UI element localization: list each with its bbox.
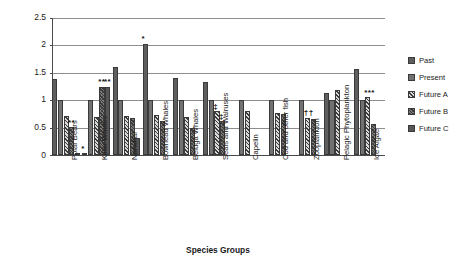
bar-annotation: ** <box>104 78 111 85</box>
y-tick-label-0: 0 <box>22 151 46 160</box>
bar[interactable] <box>148 100 153 155</box>
legend-label: Future A <box>419 90 448 99</box>
y-tick-label-2: 2 <box>22 40 46 49</box>
bar[interactable] <box>113 67 118 155</box>
legend-item[interactable]: Future C <box>408 120 468 137</box>
bar-annotation: * <box>141 35 145 42</box>
x-axis-label: Zooplankton <box>312 118 321 160</box>
bar[interactable] <box>324 93 329 155</box>
x-axis-label: Killer Whales <box>100 116 109 160</box>
legend-swatch-icon <box>408 108 415 115</box>
bar[interactable] <box>88 100 93 155</box>
y-axis-tick <box>50 155 53 156</box>
chart-legend: PastPresentFuture AFuture BFuture C <box>408 52 468 137</box>
bar[interactable] <box>275 113 280 155</box>
x-axis-label: Ice Algae <box>372 129 381 160</box>
legend-label: Past <box>419 56 434 65</box>
x-axis-label: Beluga Whales <box>191 109 200 160</box>
bar[interactable] <box>118 100 123 155</box>
bar[interactable] <box>335 90 340 155</box>
x-axis-label: Polar Bears <box>70 120 79 160</box>
biomass-bar-chart: Biomass Relative to Current Ecosystem 2.… <box>0 0 470 272</box>
legend-item[interactable]: Past <box>408 52 468 69</box>
bar[interactable] <box>94 117 99 155</box>
y-tick-label-2-5: 2.5 <box>22 13 46 22</box>
bar[interactable] <box>269 100 274 155</box>
bar[interactable] <box>184 117 189 155</box>
legend-label: Future C <box>419 124 449 133</box>
bar[interactable] <box>143 44 148 155</box>
bar[interactable] <box>124 116 129 155</box>
bar[interactable] <box>245 111 250 155</box>
bar[interactable] <box>305 118 310 155</box>
legend-swatch-icon <box>408 91 415 98</box>
bar-annotation: ‡ <box>213 103 218 110</box>
bar[interactable] <box>239 100 244 155</box>
bar-annotation: *** <box>364 89 375 96</box>
bar[interactable] <box>82 153 87 155</box>
bar[interactable] <box>365 97 370 155</box>
legend-item[interactable]: Future B <box>408 103 468 120</box>
bar-annotation: †† <box>304 109 314 116</box>
legend-swatch-icon <box>408 57 415 64</box>
y-tick-label-1: 1 <box>22 95 46 104</box>
x-axis-label: Cod and other fish <box>281 98 290 160</box>
y-tick-label-0-5: 0.5 <box>22 123 46 132</box>
bar-group <box>113 18 143 155</box>
bar-annotation: * <box>81 145 85 152</box>
bar[interactable] <box>354 69 359 155</box>
y-tick-label-1-5: 1.5 <box>22 68 46 77</box>
x-axis-label: Bowhead Whales <box>161 101 170 160</box>
bar[interactable] <box>329 100 334 155</box>
legend-swatch-icon <box>408 125 415 132</box>
x-axis-label: Capelin <box>251 134 260 160</box>
bar[interactable] <box>179 100 184 155</box>
x-axis-label: Seals and Walruses <box>221 93 230 160</box>
bar[interactable] <box>360 100 365 155</box>
x-axis-label: Pelagic Phytoplankton <box>342 85 351 160</box>
legend-label: Present <box>419 73 445 82</box>
legend-item[interactable]: Future A <box>408 86 468 103</box>
bar[interactable] <box>154 115 159 155</box>
x-axis-title: Species Groups <box>52 245 384 255</box>
bar[interactable] <box>52 79 57 155</box>
bar[interactable] <box>173 78 178 155</box>
legend-item[interactable]: Present <box>408 69 468 86</box>
bar[interactable] <box>58 100 63 155</box>
legend-swatch-icon <box>408 74 415 81</box>
legend-label: Future B <box>419 107 448 116</box>
bar[interactable] <box>203 82 208 155</box>
x-axis-label: Narwhal <box>130 132 139 160</box>
